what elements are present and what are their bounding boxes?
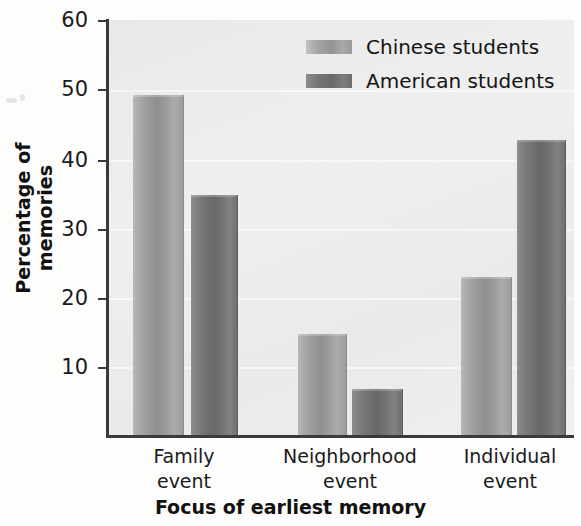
y-tick-20 — [98, 298, 109, 300]
y-tick-60 — [98, 20, 109, 22]
bar-highlight — [133, 95, 183, 97]
bar-chart-figure: 60 50 40 30 20 10 Chinese students Ameri… — [0, 0, 581, 526]
x-axis-title: Focus of earliest memory — [0, 496, 581, 518]
y-tick-40 — [98, 160, 109, 162]
bar-american-individual — [517, 140, 566, 437]
legend-item-chinese: Chinese students — [306, 30, 568, 64]
x-category-line2: event — [118, 469, 250, 494]
bar-chinese-neighborhood — [298, 334, 347, 437]
bar-american-family — [191, 195, 238, 437]
y-axis-title: Percentage of memories — [12, 88, 56, 348]
bar-highlight — [191, 195, 237, 197]
x-category-label-neighborhood: Neighborhood event — [266, 444, 434, 494]
legend-label-american: American students — [366, 69, 554, 93]
y-tick-label-10: 10 — [48, 355, 88, 379]
x-category-label-individual: Individual event — [442, 444, 578, 494]
american-swatch-icon — [306, 74, 352, 88]
x-axis-line — [106, 435, 574, 438]
bar-highlight — [517, 140, 565, 142]
x-category-line2: event — [266, 469, 434, 494]
x-category-line2: event — [442, 469, 578, 494]
bar-chinese-family — [133, 95, 184, 437]
legend-label-chinese: Chinese students — [366, 35, 539, 59]
chinese-swatch-icon — [306, 40, 352, 54]
x-category-line1: Individual — [442, 444, 578, 469]
x-category-label-family: Family event — [118, 444, 250, 494]
bar-highlight — [298, 334, 346, 336]
legend-item-american: American students — [306, 64, 568, 98]
y-tick-10 — [98, 367, 109, 369]
bar-chinese-individual — [461, 277, 512, 437]
x-category-line1: Neighborhood — [266, 444, 434, 469]
y-tick-30 — [98, 229, 109, 231]
x-category-line1: Family — [118, 444, 250, 469]
bar-highlight — [352, 389, 402, 391]
y-tick-label-60: 60 — [48, 8, 88, 32]
bar-american-neighborhood — [352, 389, 403, 437]
chart-legend: Chinese students American students — [306, 30, 568, 98]
y-tick-50 — [98, 89, 109, 91]
bar-highlight — [461, 277, 511, 279]
